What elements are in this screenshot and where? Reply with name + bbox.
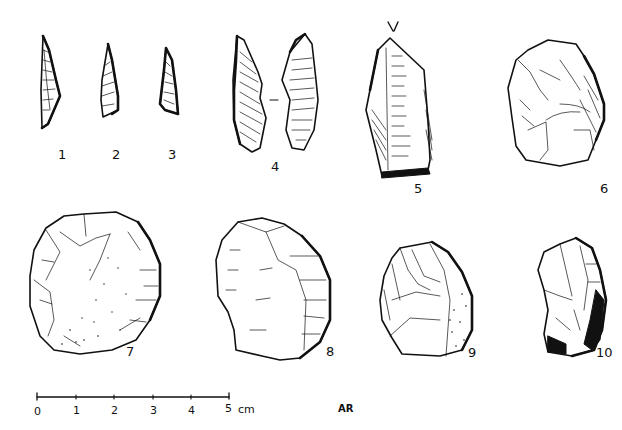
scale-bar-line xyxy=(37,393,229,400)
label-artifact-3: 3 xyxy=(168,148,176,161)
label-artifact-8: 8 xyxy=(326,345,334,358)
artifact-4-drawing xyxy=(233,34,318,152)
artifact-8-drawing xyxy=(216,218,330,360)
artifact-1-drawing xyxy=(41,36,60,128)
artifact-5-drawing xyxy=(366,22,432,178)
scale-unit: cm xyxy=(238,404,255,415)
label-artifact-9: 9 xyxy=(468,346,476,359)
scale-tick-1: 1 xyxy=(73,405,80,416)
illustrator-signature: AR xyxy=(338,404,353,414)
artifact-6-drawing xyxy=(508,40,604,166)
label-artifact-10: 10 xyxy=(596,346,613,359)
lithic-plate xyxy=(0,0,622,430)
scale-tick-5: 5 xyxy=(225,403,232,414)
artifact-10-drawing xyxy=(538,238,606,356)
label-artifact-2: 2 xyxy=(112,148,120,161)
label-artifact-1: 1 xyxy=(58,148,66,161)
scale-tick-4: 4 xyxy=(188,405,195,416)
artifact-3-drawing xyxy=(160,48,178,114)
artifact-7-drawing xyxy=(30,212,160,354)
scale-tick-0: 0 xyxy=(34,406,41,417)
label-artifact-6: 6 xyxy=(600,182,608,195)
label-artifact-5: 5 xyxy=(414,182,422,195)
scale-tick-2: 2 xyxy=(111,405,118,416)
scale-tick-3: 3 xyxy=(150,405,157,416)
label-artifact-4: 4 xyxy=(271,160,279,173)
artifact-9-drawing xyxy=(380,242,472,356)
label-artifact-7: 7 xyxy=(126,345,134,358)
artifact-2-drawing xyxy=(101,44,118,117)
